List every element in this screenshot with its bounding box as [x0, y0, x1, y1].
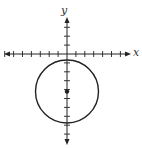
y-axis-down-arrow-icon — [65, 139, 70, 145]
x-axis-right-arrow-icon — [125, 52, 131, 57]
x-axis-label: x — [133, 47, 139, 58]
y-axis-label: y — [61, 5, 67, 16]
coordinate-plane: x y — [0, 0, 142, 148]
diagram-canvas — [0, 0, 142, 148]
y-axis-up-arrow-icon — [65, 17, 70, 23]
circle-center-point — [65, 89, 69, 93]
